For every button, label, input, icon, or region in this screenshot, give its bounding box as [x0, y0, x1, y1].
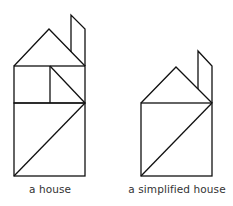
- house-lower-diagonal: [14, 103, 85, 176]
- simplified-house-caption: a simplified house: [128, 183, 225, 195]
- house-caption: a house: [29, 183, 71, 195]
- house-drawing: [14, 15, 85, 176]
- simplified-house-diagonal: [141, 103, 212, 176]
- simplified-house-drawing: [141, 51, 212, 176]
- house-upper-diagonal: [50, 66, 85, 103]
- diagram-canvas: [0, 0, 233, 206]
- house-roof: [14, 29, 85, 66]
- simplified-house-roof: [141, 67, 212, 103]
